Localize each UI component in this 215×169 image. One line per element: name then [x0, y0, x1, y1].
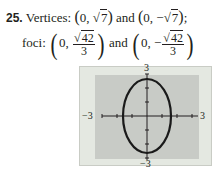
problem-number: 25.	[6, 11, 23, 25]
vertices-label: Vertices:	[26, 10, 71, 25]
tick-label-y-bottom: −3	[140, 159, 151, 169]
problem-line-foci: foci: (0, √423) and (0, −√423)	[22, 29, 195, 59]
and-text: and	[116, 10, 135, 25]
vertex-1: (0, √7)	[74, 10, 112, 25]
ellipse-graph: 3 −3 −3 3	[79, 66, 212, 166]
focus-2: (0, −√423)	[131, 35, 195, 50]
tick-label-y-top: 3	[144, 63, 149, 73]
focus-1: (0, √423)	[49, 35, 109, 50]
tick-label-x-left: −3	[82, 111, 93, 121]
ellipse-plot	[80, 67, 213, 167]
foci-label: foci:	[22, 35, 46, 50]
tick-label-x-right: 3	[200, 111, 205, 121]
and-text: and	[109, 35, 128, 50]
problem-line-vertices: 25. Vertices: (0, √7) and (0, −√7);	[6, 9, 187, 26]
vertex-2: (0, −√7);	[138, 10, 187, 25]
